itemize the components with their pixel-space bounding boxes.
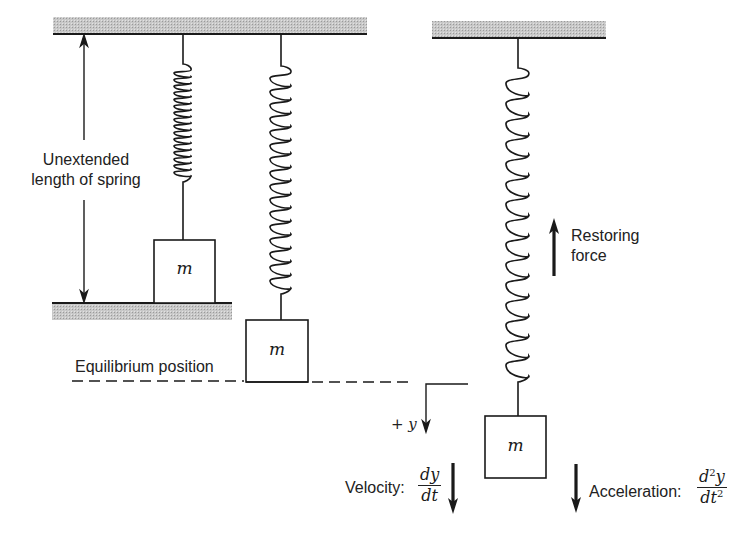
unextended-label-line1: Unextended bbox=[22, 150, 150, 170]
velocity-label: Velocity: bbox=[345, 478, 405, 498]
velocity-denominator: dt bbox=[421, 486, 438, 505]
mass-label-2: m bbox=[246, 339, 308, 359]
accel-d: d bbox=[699, 467, 709, 486]
acceleration-arrow bbox=[571, 464, 581, 513]
restoring-label-line2: force bbox=[571, 246, 639, 266]
restoring-label-line1: Restoring bbox=[571, 226, 639, 246]
unextended-label-line2: length of spring bbox=[22, 170, 150, 190]
right-ceiling bbox=[432, 21, 606, 38]
velocity-fraction: dy dt bbox=[418, 466, 441, 505]
velocity-numerator: dy bbox=[418, 466, 441, 486]
velocity-arrow bbox=[448, 463, 458, 514]
spring-equilibrium bbox=[270, 34, 291, 320]
spring-unextended bbox=[174, 34, 191, 240]
restoring-force-arrow bbox=[549, 218, 559, 276]
accel-dt: dt bbox=[700, 488, 717, 507]
acceleration-label: Acceleration: bbox=[589, 482, 682, 502]
acceleration-denominator: dt2 bbox=[700, 488, 723, 507]
left-ceiling bbox=[53, 17, 367, 34]
mass-label-1: m bbox=[154, 258, 215, 278]
accel-y: y bbox=[716, 467, 725, 486]
plus-y-label: + y bbox=[391, 414, 417, 434]
equilibrium-position-label: Equilibrium position bbox=[75, 357, 214, 377]
spring-displaced bbox=[506, 38, 529, 416]
acceleration-numerator: d2y bbox=[697, 468, 727, 488]
restoring-force-label: Restoring force bbox=[571, 226, 639, 266]
positive-y-axis bbox=[423, 384, 469, 432]
floor bbox=[52, 303, 232, 320]
acceleration-fraction: d2y dt2 bbox=[697, 468, 727, 507]
unextended-length-label: Unextended length of spring bbox=[22, 150, 150, 190]
accel-den-exponent: 2 bbox=[717, 488, 723, 499]
spring-diagram bbox=[0, 0, 748, 540]
equilibrium-line bbox=[72, 381, 408, 382]
mass-label-3: m bbox=[485, 435, 546, 455]
